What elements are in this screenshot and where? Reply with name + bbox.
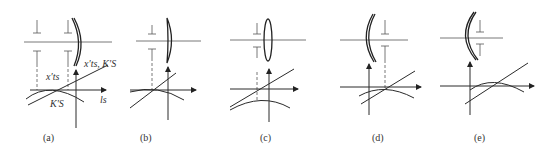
curve xyxy=(470,82,524,92)
panel-b: (b) xyxy=(130,18,201,144)
curve xyxy=(359,89,414,98)
caption-a: (a) xyxy=(43,132,54,144)
panel-e: (e) xyxy=(440,12,534,144)
caption-e: (e) xyxy=(474,132,485,144)
label-curve-bottom: K′S xyxy=(49,98,64,109)
panel-a: x′ts, K′S x′ts K′S ls (a) xyxy=(24,18,116,144)
caption-c: (c) xyxy=(260,132,271,144)
lens-diagram-figure: x′ts, K′S x′ts K′S ls (a) (b) (c) xyxy=(0,0,555,152)
label-axis: ls xyxy=(100,94,107,105)
panel-c: (c) xyxy=(230,19,306,144)
lens-shape xyxy=(167,18,172,63)
lens-shape xyxy=(465,12,476,60)
straight-line xyxy=(230,69,294,107)
straight-line xyxy=(465,63,528,104)
caption-d: (d) xyxy=(372,132,384,144)
label-line: x′ts, K′S xyxy=(83,58,116,69)
label-curve-top: x′ts xyxy=(45,71,59,82)
panel-d: (d) xyxy=(340,14,421,144)
caption-b: (b) xyxy=(140,132,152,144)
curve xyxy=(130,89,184,100)
